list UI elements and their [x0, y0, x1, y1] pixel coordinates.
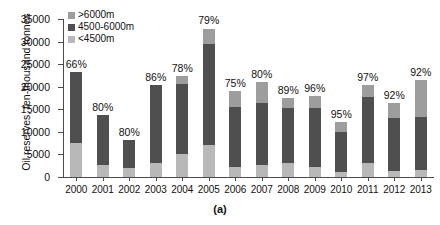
bar-segment-mid — [362, 97, 374, 162]
x-tick — [341, 177, 342, 181]
bar-segment-mid — [229, 107, 241, 167]
bar-segment-shallow — [176, 154, 188, 177]
bar-segment-mid — [388, 118, 400, 171]
x-tick-label: 2012 — [383, 184, 405, 195]
bar-2005 — [203, 29, 215, 178]
bar-segment-shallow — [415, 170, 427, 177]
x-tick-label: 2001 — [92, 184, 114, 195]
bar-segment-mid — [176, 84, 188, 155]
bar-segment-deep — [282, 98, 294, 108]
figure-container: Oil reserves, ten-thousand tonnes >6000m… — [0, 0, 440, 225]
bar-segment-mid — [203, 44, 215, 146]
bar-segment-shallow — [229, 167, 241, 177]
bar-2010 — [335, 122, 347, 177]
x-tick-label: 2013 — [410, 184, 432, 195]
bar-value-label: 80% — [251, 68, 272, 80]
x-axis-line — [63, 177, 434, 178]
bar-value-label: 75% — [225, 77, 246, 89]
bar-2008 — [282, 98, 294, 177]
bar-segment-deep — [203, 29, 215, 44]
bar-2013 — [415, 80, 427, 177]
x-tick-label: 2002 — [118, 184, 140, 195]
bar-segment-deep — [388, 103, 400, 118]
bar-segment-deep — [415, 80, 427, 116]
bar-segment-mid — [123, 140, 135, 169]
bar-segment-shallow — [203, 145, 215, 177]
bar-value-label: 96% — [304, 82, 325, 94]
bar-segment-shallow — [97, 165, 109, 177]
bar-segment-shallow — [256, 165, 268, 177]
bar-segment-mid — [150, 85, 162, 162]
y-tick-label: 0 — [44, 171, 50, 183]
bar-segment-deep — [256, 82, 268, 103]
x-tick-label: 2006 — [224, 184, 246, 195]
y-tick-label: 20000 — [21, 81, 50, 93]
y-tick — [58, 132, 63, 133]
y-tick — [58, 87, 63, 88]
bar-segment-deep — [229, 91, 241, 106]
bar-segment-deep — [309, 96, 321, 108]
bar-segment-mid — [70, 72, 82, 143]
bar-value-label: 95% — [331, 108, 352, 120]
x-tick-label: 2004 — [171, 184, 193, 195]
bar-segment-shallow — [362, 163, 374, 177]
x-tick — [235, 177, 236, 181]
x-tick — [368, 177, 369, 181]
x-tick — [421, 177, 422, 181]
y-tick — [58, 109, 63, 110]
bar-segment-shallow — [150, 163, 162, 177]
x-tick-label: 2011 — [357, 184, 379, 195]
bar-value-label: 86% — [145, 71, 166, 83]
y-tick-label: 10000 — [21, 126, 50, 138]
bar-segment-shallow — [282, 163, 294, 177]
x-tick — [288, 177, 289, 181]
bar-segment-mid — [97, 115, 109, 165]
bar-2001 — [97, 115, 109, 177]
bar-segment-deep — [335, 122, 347, 132]
y-axis-line — [63, 19, 64, 177]
y-tick-label: 30000 — [21, 36, 50, 48]
x-tick — [182, 177, 183, 181]
x-tick-label: 2007 — [251, 184, 273, 195]
bar-segment-shallow — [70, 143, 82, 177]
x-tick-label: 2008 — [277, 184, 299, 195]
x-tick — [209, 177, 210, 181]
y-tick — [58, 42, 63, 43]
x-tick-label: 2005 — [198, 184, 220, 195]
bar-segment-mid — [309, 108, 321, 167]
figure-caption: (a) — [0, 203, 440, 215]
bar-2004 — [176, 76, 188, 177]
legend-swatch-deep — [68, 12, 75, 19]
bar-2012 — [388, 103, 400, 177]
bar-value-label: 78% — [172, 62, 193, 74]
y-tick-label: 15000 — [21, 103, 50, 115]
x-tick-label: 2000 — [65, 184, 87, 195]
bar-segment-deep — [362, 85, 374, 97]
y-tick — [58, 154, 63, 155]
x-tick — [156, 177, 157, 181]
bar-value-label: 80% — [92, 101, 113, 113]
bar-2007 — [256, 82, 268, 177]
bar-value-label: 92% — [410, 66, 431, 78]
bar-segment-mid — [335, 132, 347, 172]
bar-2002 — [123, 140, 135, 177]
x-tick-label: 2003 — [145, 184, 167, 195]
bar-segment-shallow — [309, 167, 321, 177]
x-tick — [76, 177, 77, 181]
y-tick-label: 5000 — [27, 148, 50, 160]
y-tick-label: 35000 — [21, 13, 50, 25]
bar-segment-mid — [256, 103, 268, 166]
bar-2000 — [70, 72, 82, 177]
bar-value-label: 66% — [66, 58, 87, 70]
plot-area: 05000100001500020000250003000035000 66%8… — [63, 19, 434, 177]
bar-value-label: 80% — [119, 126, 140, 138]
x-tick — [129, 177, 130, 181]
bar-value-label: 97% — [357, 71, 378, 83]
bar-segment-deep — [176, 76, 188, 83]
bar-segment-shallow — [123, 168, 135, 177]
bar-value-label: 89% — [278, 84, 299, 96]
x-tick-label: 2009 — [304, 184, 326, 195]
y-tick — [58, 64, 63, 65]
x-tick — [394, 177, 395, 181]
bar-segment-mid — [282, 108, 294, 163]
